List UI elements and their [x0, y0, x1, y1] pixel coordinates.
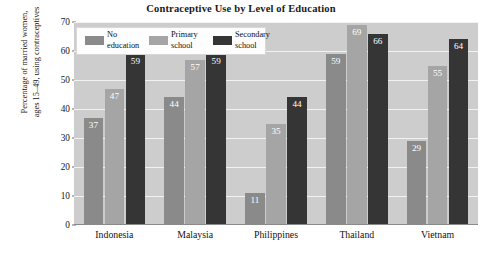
bar-group: 596966	[326, 22, 388, 225]
bar-value-label: 59	[326, 56, 346, 67]
x-axis-tick-label: Indonesia	[74, 229, 155, 240]
bar-group: 295564	[407, 22, 469, 225]
legend-swatch	[85, 36, 104, 45]
x-axis-tick-labels: IndonesiaMalaysiaPhilippinesThailandViet…	[74, 229, 478, 247]
x-axis-tick-label: Malaysia	[155, 229, 236, 240]
bar[interactable]: 44	[164, 97, 184, 225]
y-axis-tick-label: 70	[48, 17, 70, 27]
legend-label: Noeducation	[107, 30, 139, 51]
bar[interactable]: 69	[347, 25, 367, 225]
y-axis-tick-label: 20	[48, 162, 70, 172]
bar-value-label: 64	[449, 41, 469, 52]
y-axis-tick-label: 30	[48, 133, 70, 143]
chart-title: Contraceptive Use by Level of Education	[0, 3, 482, 14]
bar[interactable]: 47	[105, 89, 125, 225]
y-axis-title-line-1: Percentage of married women,	[19, 0, 31, 157]
legend-label: Secondaryschool	[235, 30, 270, 51]
legend-label: Primaryschool	[171, 30, 198, 51]
bar-value-label: 47	[105, 91, 125, 102]
bar[interactable]: 59	[326, 54, 346, 225]
bar[interactable]: 55	[428, 66, 448, 226]
y-axis-tick-label: 60	[48, 46, 70, 56]
legend-label-line: school	[235, 41, 270, 52]
x-axis-tick-label: Philippines	[236, 229, 317, 240]
y-axis-tick-labels: 010203040506070	[48, 20, 70, 225]
bar-value-label: 44	[164, 99, 184, 110]
bar-value-label: 66	[368, 36, 388, 47]
bar-value-label: 35	[266, 126, 286, 137]
legend-label-line: school	[171, 41, 198, 52]
y-axis-tick-label: 40	[48, 104, 70, 114]
bar-value-label: 69	[347, 27, 367, 38]
x-axis-tick-label: Thailand	[316, 229, 397, 240]
chart-figure: Contraceptive Use by Level of Education …	[0, 0, 482, 266]
bar-value-label: 37	[84, 120, 104, 131]
bar-value-label: 59	[206, 56, 226, 67]
y-axis-tick-label: 0	[48, 220, 70, 230]
legend-label-line: education	[107, 41, 139, 52]
y-axis-tick-label: 10	[48, 191, 70, 201]
y-axis-tick-label: 50	[48, 75, 70, 85]
y-axis-title: Percentage of married women, ages 15–49,…	[19, 0, 45, 157]
bar[interactable]: 35	[266, 124, 286, 226]
bar[interactable]: 11	[245, 193, 265, 225]
bar[interactable]: 29	[407, 141, 427, 225]
bar-value-label: 44	[287, 99, 307, 110]
bar[interactable]: 66	[368, 34, 388, 225]
bar[interactable]: 59	[206, 54, 226, 225]
bar-value-label: 59	[126, 56, 146, 67]
y-axis-title-line-2: ages 15–49, using contraceptives	[31, 0, 43, 157]
x-axis-tick-label: Vietnam	[397, 229, 478, 240]
legend-swatch	[149, 36, 168, 45]
legend-label-line: Secondary	[235, 30, 270, 41]
bar-value-label: 55	[428, 68, 448, 79]
bar-value-label: 11	[245, 195, 265, 206]
bar[interactable]: 59	[126, 54, 146, 225]
bar[interactable]: 37	[84, 118, 104, 225]
legend-label-line: Primary	[171, 30, 198, 41]
x-axis-line	[74, 224, 478, 225]
bar[interactable]: 64	[449, 39, 469, 225]
chart-legend: NoeducationPrimaryschoolSecondaryschool	[76, 27, 266, 55]
bar[interactable]: 44	[287, 97, 307, 225]
bar-value-label: 57	[185, 62, 205, 73]
bar[interactable]: 57	[185, 60, 205, 225]
bar-value-label: 29	[407, 143, 427, 154]
legend-label-line: No	[107, 30, 139, 41]
legend-swatch	[213, 36, 232, 45]
